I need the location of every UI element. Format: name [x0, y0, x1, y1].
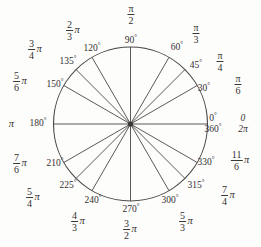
label-radian-pi-2: π 2 [127, 4, 134, 26]
pi-symbol: π [130, 223, 137, 234]
pi-symbol: π [186, 215, 193, 226]
fraction-5-6: 5 6 [13, 71, 20, 93]
pi-symbol: π [33, 191, 40, 202]
fraction-denominator: 3 [179, 222, 186, 233]
fraction-denominator: 3 [66, 31, 73, 42]
pi-symbol: π [20, 75, 27, 86]
fraction-denominator: 2 [127, 15, 134, 26]
label-radian-2-3-pi: 2 3 π [66, 20, 80, 42]
fraction-denominator: 6 [234, 85, 241, 96]
fraction-7-6: 7 6 [13, 153, 20, 175]
label-radian-3-2-pi: 3 2 π [123, 219, 137, 241]
fraction-numerator: π [216, 51, 223, 63]
label-degree-30: 30° [198, 84, 210, 94]
fraction-denominator: 3 [71, 222, 78, 233]
fraction-numerator: 5 [26, 187, 33, 199]
pi-symbol: π [9, 118, 15, 129]
label-radian-7-4-pi: 7 4 π [221, 185, 235, 207]
label-radian-pi-4: π 4 [216, 51, 223, 73]
fraction-5-4: 5 4 [26, 187, 33, 209]
fraction-numerator: π [192, 23, 199, 35]
fraction-numerator: 11 [231, 150, 243, 162]
label-degree-270: 270° [122, 205, 139, 215]
pi-symbol: π [35, 43, 42, 54]
label-radians-0-2pi: 0 2π [238, 113, 248, 135]
label-degree-240: 240° [84, 196, 101, 206]
fraction-7-4: 7 4 [221, 185, 228, 207]
radian-text-2pi: 2π [238, 124, 248, 135]
label-degrees-0-360: 0° 360° [204, 113, 221, 135]
pi-symbol: π [73, 24, 80, 35]
fraction-5-3: 5 3 [179, 211, 186, 233]
fraction-denominator: 4 [221, 196, 228, 207]
fraction-denominator: 6 [231, 161, 243, 172]
label-radian-7-6-pi: 7 6 π [13, 153, 27, 175]
fraction-4-3: 4 3 [71, 211, 78, 233]
label-degree-315: 315° [187, 181, 204, 191]
fraction-denominator: 4 [26, 198, 33, 209]
label-degree-210: 210° [46, 159, 63, 169]
label-degree-180: 180° [29, 119, 46, 129]
fraction-numerator: 2 [66, 20, 73, 32]
fraction-numerator: π [234, 74, 241, 86]
fraction-numerator: 4 [71, 211, 78, 223]
label-radian-3-4-pi: 3 4 π [28, 39, 42, 61]
label-radian-5-4-pi: 5 4 π [26, 187, 40, 209]
radian-text-0: 0 [238, 113, 248, 124]
label-degree-135: 135° [59, 57, 76, 67]
fraction-denominator: 6 [13, 164, 20, 175]
unit-circle-figure: 0° 360° 0 2π 30° π 6 45° π 4 60° π 3 90° [0, 0, 261, 247]
label-radian-5-3-pi: 5 3 π [179, 211, 193, 233]
label-radian-pi-6: π 6 [234, 74, 241, 96]
fraction-2-3: 2 3 [66, 20, 73, 42]
fraction-3-2: 3 2 [123, 219, 130, 241]
fraction-pi-3: π 3 [192, 23, 199, 45]
fraction-pi-2: π 2 [127, 4, 134, 26]
fraction-numerator: 5 [13, 71, 20, 83]
label-radian-pi-3: π 3 [192, 23, 199, 45]
label-degree-60: 60° [171, 43, 183, 53]
pi-symbol: π [78, 215, 85, 226]
fraction-11-6: 11 6 [231, 150, 243, 172]
fraction-numerator: 7 [221, 185, 228, 197]
fraction-numerator: 7 [13, 153, 20, 165]
label-radian-5-6-pi: 5 6 π [13, 71, 27, 93]
fraction-numerator: 3 [123, 219, 130, 231]
label-degree-330: 330° [197, 158, 214, 168]
label-degree-90: 90° [125, 36, 137, 46]
fraction-denominator: 4 [28, 50, 35, 61]
label-degree-150: 150° [46, 80, 63, 90]
pi-symbol: π [20, 157, 27, 168]
label-radian-4-3-pi: 4 3 π [71, 211, 85, 233]
pi-symbol: π [242, 154, 249, 165]
degree-text-360: 360° [204, 124, 221, 135]
label-degree-225: 225° [59, 181, 76, 191]
fraction-denominator: 6 [13, 82, 20, 93]
pi-symbol: π [228, 189, 235, 200]
fraction-denominator: 2 [123, 230, 130, 241]
label-radian-11-6-pi: 11 6 π [231, 150, 249, 172]
center-point [128, 121, 133, 126]
fraction-3-4: 3 4 [28, 39, 35, 61]
label-degree-300: 300° [161, 196, 178, 206]
label-degree-120: 120° [83, 44, 100, 54]
fraction-pi-4: π 4 [216, 51, 223, 73]
fraction-denominator: 4 [216, 62, 223, 73]
fraction-numerator: 5 [179, 211, 186, 223]
label-degree-45: 45° [190, 61, 202, 71]
fraction-denominator: 3 [192, 34, 199, 45]
fraction-pi-6: π 6 [234, 74, 241, 96]
fraction-numerator: 3 [28, 39, 35, 51]
fraction-numerator: π [127, 4, 134, 16]
label-radian-pi: π [9, 119, 15, 130]
